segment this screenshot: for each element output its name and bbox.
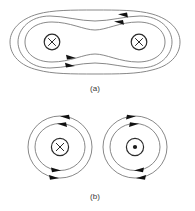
arrow-b-left-bottom-outer — [49, 175, 59, 180]
wire-group-b-right — [103, 115, 167, 180]
figure-canvas: (a) — [0, 0, 195, 211]
panel-b: (b) — [28, 115, 167, 201]
wire-a-right — [131, 34, 147, 50]
arrow-b-right-bottom-outer — [136, 175, 146, 180]
arrow-b-right-top-inner — [126, 115, 136, 120]
arrow-b-left-top-outer — [60, 115, 70, 120]
panel-a-label: (a) — [90, 84, 100, 93]
wire-a-left — [44, 34, 60, 50]
field-line-a-outer — [10, 10, 180, 74]
out-of-page-dot-icon — [133, 145, 137, 149]
wire-group-b-left — [28, 115, 92, 180]
arrow-a-top-outer — [118, 13, 128, 18]
arrow-b-left-bottom-inner — [51, 167, 61, 172]
arrow-a-top-inner — [114, 20, 124, 25]
arrow-b-right-bottom-inner — [134, 167, 144, 172]
magnetic-field-figure: (a) — [0, 0, 195, 211]
panel-b-label: (b) — [90, 192, 100, 201]
arrow-b-right-top-outer — [129, 122, 139, 127]
panel-a: (a) — [10, 10, 180, 93]
arrow-b-left-top-inner — [57, 122, 67, 127]
